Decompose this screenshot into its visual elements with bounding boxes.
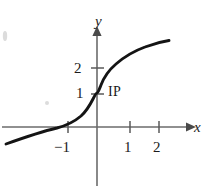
x-tick-label-neg1: −1	[54, 140, 70, 155]
y-axis-label: y	[95, 14, 102, 29]
function-curve	[6, 41, 169, 145]
x-axis-label: x	[194, 120, 201, 135]
plot-canvas	[0, 0, 212, 186]
y-tick-label-1: 1	[76, 86, 84, 101]
figure-container: y x 2 1 −1 1 2 IP	[0, 0, 212, 186]
scan-artifact	[3, 31, 7, 41]
y-tick-label-2: 2	[74, 61, 82, 76]
scan-artifact-dot	[45, 101, 49, 105]
inflection-point-label: IP	[108, 85, 121, 99]
x-tick-label-2: 2	[153, 140, 161, 155]
x-tick-label-1: 1	[124, 140, 132, 155]
